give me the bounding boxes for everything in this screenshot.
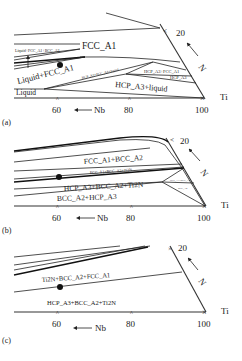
- ti-label: Ti: [221, 306, 229, 316]
- n-label: N: [198, 167, 210, 178]
- region-label: Liquid+FCC_A1: [16, 62, 75, 86]
- n-label: N: [196, 276, 208, 287]
- nb-label: Nb: [94, 105, 105, 115]
- tick-mark: ^: [56, 204, 59, 210]
- nb-label: Nb: [97, 213, 108, 223]
- region-label: BCC_A2+HCP_A3: [57, 192, 117, 203]
- panel-caption: (c): [2, 336, 11, 345]
- line: [14, 246, 120, 257]
- line: [14, 246, 145, 270]
- tick-label: 60: [52, 319, 62, 329]
- tick-mark: ^: [130, 310, 133, 316]
- region-label: HCP_A3+BCC_A2+Ti2N: [64, 180, 144, 193]
- panel-c: ^ ^ × × Ti2N+BCC_A2+FCC_A1 HCP_A3+BCC_A2…: [2, 243, 229, 345]
- composition-marker: [57, 284, 63, 290]
- phase-diagram-figure: ^ ^ < × FCC_A1 Liquid+FCC_A1+BCC_A2 Liqu…: [0, 0, 242, 361]
- composition-marker: [56, 174, 62, 180]
- tick-mark: <: [170, 136, 174, 144]
- tick-mark: ×: [202, 308, 207, 317]
- panel-a: ^ ^ < × FCC_A1 Liquid+FCC_A1+BCC_A2 Liqu…: [2, 13, 228, 127]
- tick-label: 100: [195, 105, 209, 115]
- tick-mark: <: [163, 27, 167, 35]
- region-label: Liquid: [16, 88, 36, 97]
- ti-label: Ti: [220, 92, 228, 102]
- panel-caption: (b): [2, 226, 12, 235]
- tick-label: 100: [197, 213, 211, 223]
- region-label: Ti2N+BCC_A2+FCC_A1: [42, 271, 111, 283]
- region-label: BCC_A2: [178, 187, 188, 190]
- tick-mark: ^: [128, 96, 131, 102]
- region-label: Liquid+FCC_A1+BCC_A2: [15, 48, 60, 53]
- region-label: FCC_A1: [82, 41, 117, 51]
- tick-mark: ×: [168, 245, 172, 253]
- tick-label: 60: [52, 213, 62, 223]
- tick-label: 80: [126, 213, 136, 223]
- n-tick-label: 20: [180, 136, 190, 146]
- tick-mark: ^: [130, 204, 133, 210]
- tick-label: 100: [197, 319, 211, 329]
- n-arrow-icon: [189, 259, 198, 270]
- tick-mark: ^: [56, 96, 59, 102]
- n-arrow-icon: [190, 150, 200, 161]
- region-label: HCP_A3: [170, 75, 187, 80]
- panel-caption: (a): [2, 118, 11, 127]
- line: [14, 247, 148, 275]
- n-label: N: [196, 62, 208, 73]
- region-label: HCP_A3+BCC_A2: [170, 179, 191, 182]
- region-label: FCC_A1+BCC_A2: [84, 153, 144, 166]
- panel-b: ^ ^ × < FCC_A1+BCC_A2 FCC_A1+BCC_A2+Ti2N…: [2, 136, 229, 235]
- line: [44, 89, 204, 98]
- ti-label: Ti: [221, 200, 229, 210]
- nb-label: Nb: [95, 323, 106, 333]
- line: [162, 182, 194, 183]
- region-label: HCP_A3+liquid: [115, 80, 168, 94]
- tick-mark: ×: [200, 94, 205, 103]
- tick-label: 80: [126, 319, 136, 329]
- region-label: HCP_A3+BCC_A2+Ti2N: [47, 299, 116, 306]
- n-tick-label: 20: [176, 28, 186, 38]
- line: [106, 13, 160, 28]
- region-label: HCP_A3+FCC_A1: [144, 69, 179, 74]
- tick-label: 60: [52, 105, 62, 115]
- tick-label: 80: [124, 105, 134, 115]
- region-label: HCP_A3+FCC_A1+liquid: [81, 68, 119, 80]
- n-tick-label: 20: [178, 243, 188, 253]
- tick-mark: ^: [56, 310, 59, 316]
- tick-mark: ×: [202, 202, 207, 211]
- line: [14, 28, 160, 35]
- n-arrow-icon: [188, 44, 198, 56]
- line: [80, 57, 180, 62]
